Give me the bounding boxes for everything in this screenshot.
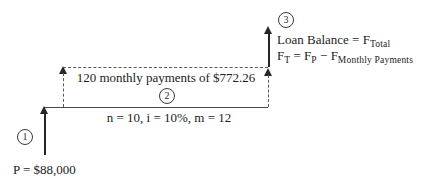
fmp-subscript: Monthly Payments — [338, 55, 413, 65]
step-marker-3: 3 — [278, 12, 294, 28]
equals-fp: = F — [290, 48, 311, 63]
principal-arrow-shaft — [44, 113, 46, 155]
terms-label: n = 10, i = 10%, m = 12 — [60, 110, 278, 125]
step-marker-1: 1 — [17, 129, 33, 145]
balance-arrow-shaft — [268, 33, 270, 67]
loan-cash-flow-diagram: 1 P = $88,000 120 monthly payments of $7… — [0, 0, 426, 178]
step-marker-1-label: 1 — [23, 131, 28, 142]
payments-label: 120 monthly payments of $772.26 — [60, 70, 272, 85]
timeline-axis — [44, 107, 268, 108]
step-marker-3-label: 3 — [284, 14, 289, 25]
principal-label: P = $88,000 — [13, 162, 76, 177]
step-marker-2: 2 — [159, 88, 175, 104]
loan-balance-line1-main: Loan Balance = F — [277, 32, 370, 47]
payments-top-dashed-line — [63, 67, 268, 68]
loan-balance-line2: FT = FP − FMonthly Payments — [277, 48, 413, 65]
loan-balance-line1: Loan Balance = FTotal — [277, 32, 390, 49]
step-marker-2-label: 2 — [165, 90, 170, 101]
minus-f: − F — [317, 48, 338, 63]
fp-subscript: P — [311, 55, 316, 65]
ft-subscript: T — [284, 55, 290, 65]
